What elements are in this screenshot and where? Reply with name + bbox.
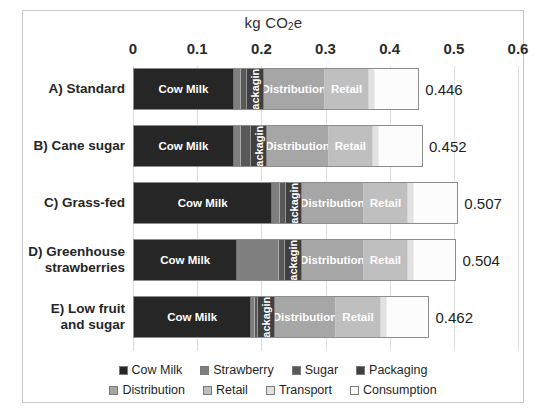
segment-label: Distribution bbox=[302, 183, 363, 223]
legend-item[interactable]: Consumption bbox=[350, 383, 437, 397]
x-tick-label: 0.5 bbox=[443, 40, 464, 57]
bar-segment-consumption[interactable] bbox=[387, 297, 429, 337]
bar-segment-sugar[interactable] bbox=[241, 126, 251, 166]
legend-label: Retail bbox=[216, 383, 248, 397]
x-tick-label: 0.3 bbox=[315, 40, 336, 57]
bar-segment-consumption[interactable] bbox=[379, 126, 422, 166]
legend-item[interactable]: Distribution bbox=[109, 383, 185, 397]
x-axis-tick-labels: 00.10.20.30.40.50.6 bbox=[0, 40, 547, 62]
axis-title-tail: e bbox=[294, 14, 303, 31]
bar-segment-retail[interactable]: Retail bbox=[364, 240, 409, 280]
segment-label: Packaging bbox=[251, 126, 267, 166]
segment-label: Distribution bbox=[267, 126, 327, 166]
bar-segment-cow-milk[interactable]: Cow Milk bbox=[134, 297, 251, 337]
segment-label: Packaging bbox=[285, 240, 301, 280]
bar-segment-packaging[interactable]: Packaging bbox=[286, 183, 303, 223]
legend-label: Cow Milk bbox=[132, 363, 183, 377]
segment-label: Distribution bbox=[302, 240, 363, 280]
stacked-bar[interactable]: Cow MilkPackagingDistributionRetail bbox=[133, 239, 456, 281]
legend-label: Consumption bbox=[363, 383, 437, 397]
chart-axis-title: kg CO2e bbox=[0, 14, 547, 32]
bar-total-label: 0.462 bbox=[435, 309, 473, 326]
bar-segment-packaging[interactable]: Packaging bbox=[251, 126, 268, 166]
chart-row: C) Grass-fedCow MilkPackagingDistributio… bbox=[133, 182, 518, 224]
legend-row-2: DistributionRetailTransportConsumption bbox=[22, 380, 524, 400]
legend-swatch bbox=[203, 386, 212, 395]
segment-label: Retail bbox=[364, 240, 408, 280]
legend-row-1: Cow MilkStrawberrySugarPackaging bbox=[22, 360, 524, 380]
bar-segment-strawberry[interactable] bbox=[272, 183, 279, 223]
legend-label: Transport bbox=[279, 383, 332, 397]
chart-row: E) Low fruitand sugarCow MilkPackagingDi… bbox=[133, 296, 518, 338]
bar-segment-consumption[interactable] bbox=[414, 240, 455, 280]
bar-total-label: 0.507 bbox=[464, 195, 502, 212]
bar-segment-distribution[interactable]: Distribution bbox=[302, 183, 364, 223]
x-tick-label: 0.2 bbox=[251, 40, 272, 57]
segment-label: Retail bbox=[325, 69, 369, 109]
segment-label: Packaging bbox=[286, 183, 302, 223]
bar-segment-strawberry[interactable] bbox=[234, 69, 241, 109]
bar-segment-consumption[interactable] bbox=[414, 183, 457, 223]
bar-segment-cow-milk[interactable]: Cow Milk bbox=[134, 69, 234, 109]
bar-segment-cow-milk[interactable]: Cow Milk bbox=[134, 183, 272, 223]
category-label: C) Grass-fed bbox=[0, 195, 125, 211]
legend-swatch bbox=[356, 366, 365, 375]
bar-total-label: 0.446 bbox=[425, 81, 463, 98]
bar-segment-packaging[interactable]: Packaging bbox=[258, 297, 275, 337]
x-tick-label: 0.4 bbox=[379, 40, 400, 57]
segment-label: Retail bbox=[336, 297, 380, 337]
bar-segment-cow-milk[interactable]: Cow Milk bbox=[134, 126, 234, 166]
legend-label: Strawberry bbox=[213, 363, 273, 377]
legend-item[interactable]: Transport bbox=[266, 383, 332, 397]
plot-area: A) StandardCow MilkPackagingDistribution… bbox=[133, 66, 518, 351]
bar-segment-retail[interactable]: Retail bbox=[325, 69, 370, 109]
chart-legend: Cow MilkStrawberrySugarPackaging Distrib… bbox=[22, 358, 524, 402]
segment-label: Packaging bbox=[258, 297, 274, 337]
category-label: A) Standard bbox=[0, 81, 125, 97]
segment-label: Distribution bbox=[275, 297, 335, 337]
gridline bbox=[518, 66, 519, 351]
stacked-bar[interactable]: Cow MilkPackagingDistributionRetail bbox=[133, 182, 458, 224]
stacked-bar[interactable]: Cow MilkPackagingDistributionRetail bbox=[133, 296, 429, 338]
bar-segment-strawberry[interactable] bbox=[237, 240, 279, 280]
segment-label: Retail bbox=[364, 183, 408, 223]
legend-swatch bbox=[266, 386, 275, 395]
x-tick-label: 0.6 bbox=[508, 40, 529, 57]
chart-row: A) StandardCow MilkPackagingDistribution… bbox=[133, 68, 518, 110]
bar-total-label: 0.504 bbox=[462, 252, 500, 269]
bar-segment-strawberry[interactable] bbox=[234, 126, 241, 166]
bar-segment-distribution[interactable]: Distribution bbox=[264, 69, 325, 109]
bar-segment-retail[interactable]: Retail bbox=[329, 126, 374, 166]
stacked-bar[interactable]: Cow MilkPackagingDistributionRetail bbox=[133, 68, 419, 110]
legend-label: Sugar bbox=[305, 363, 338, 377]
legend-swatch bbox=[119, 366, 128, 375]
bar-segment-retail[interactable]: Retail bbox=[364, 183, 409, 223]
x-tick-label: 0.1 bbox=[187, 40, 208, 57]
legend-item[interactable]: Strawberry bbox=[200, 363, 273, 377]
segment-label: Cow Milk bbox=[134, 183, 271, 223]
category-label: E) Low fruitand sugar bbox=[0, 301, 125, 333]
segment-label: Cow Milk bbox=[134, 69, 233, 109]
bar-segment-retail[interactable]: Retail bbox=[336, 297, 381, 337]
segment-label: Packaging bbox=[247, 69, 263, 109]
bar-segment-distribution[interactable]: Distribution bbox=[302, 240, 364, 280]
segment-label: Distribution bbox=[264, 69, 324, 109]
bar-segment-distribution[interactable]: Distribution bbox=[275, 297, 336, 337]
bar-segment-packaging[interactable]: Packaging bbox=[247, 69, 264, 109]
segment-label: Retail bbox=[329, 126, 373, 166]
category-label: D) Greenhousestrawberries bbox=[0, 244, 125, 276]
legend-item[interactable]: Sugar bbox=[292, 363, 338, 377]
legend-swatch bbox=[292, 366, 301, 375]
legend-item[interactable]: Cow Milk bbox=[119, 363, 183, 377]
legend-item[interactable]: Packaging bbox=[356, 363, 427, 377]
bar-total-label: 0.452 bbox=[429, 138, 467, 155]
legend-swatch bbox=[200, 366, 209, 375]
stacked-bar[interactable]: Cow MilkPackagingDistributionRetail bbox=[133, 125, 423, 167]
bar-segment-cow-milk[interactable]: Cow Milk bbox=[134, 240, 237, 280]
legend-label: Distribution bbox=[122, 383, 185, 397]
x-tick-label: 0 bbox=[129, 40, 137, 57]
legend-item[interactable]: Retail bbox=[203, 383, 248, 397]
bar-segment-distribution[interactable]: Distribution bbox=[267, 126, 328, 166]
bar-segment-packaging[interactable]: Packaging bbox=[285, 240, 302, 280]
bar-segment-consumption[interactable] bbox=[375, 69, 418, 109]
